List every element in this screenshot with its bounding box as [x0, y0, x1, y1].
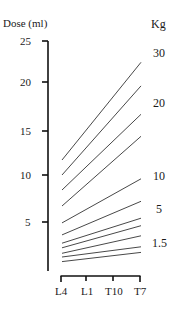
- xtick-T10: T10: [105, 285, 123, 297]
- dose-line: [62, 252, 141, 261]
- kg-title: Kg: [151, 17, 166, 31]
- y-axis: 25 20 15 10 5: [20, 35, 48, 271]
- dose-line: [62, 247, 141, 257]
- kg-label-30: 30: [153, 46, 165, 60]
- ytick-10: 10: [20, 169, 32, 181]
- ytick-15: 15: [20, 125, 32, 137]
- xtick-L1: L1: [81, 285, 93, 297]
- kg-label-10: 10: [153, 169, 165, 183]
- x-axis: L4 L1 T10 T7: [55, 276, 147, 297]
- ytick-25: 25: [20, 35, 32, 47]
- dose-line: [62, 201, 141, 235]
- xtick-T7: T7: [134, 285, 147, 297]
- dose-chart: Dose (ml) Kg 25 20 15 10 5 L4 L1 T10 T7 …: [0, 0, 178, 313]
- kg-label-1-5: 1.5: [152, 236, 167, 250]
- dose-line: [62, 136, 141, 206]
- dose-lines: [62, 62, 141, 261]
- kg-label-5: 5: [156, 202, 162, 216]
- dose-line: [62, 179, 141, 223]
- ytick-5: 5: [25, 216, 31, 228]
- dose-line: [62, 62, 141, 160]
- y-axis-title: Dose (ml): [3, 17, 48, 30]
- ytick-20: 20: [20, 76, 32, 88]
- dose-line: [62, 218, 141, 243]
- xtick-L4: L4: [55, 285, 68, 297]
- dose-line: [62, 114, 141, 190]
- kg-labels: 30 20 10 5 1.5: [152, 46, 167, 250]
- kg-label-20: 20: [153, 96, 165, 110]
- dose-line: [62, 86, 141, 175]
